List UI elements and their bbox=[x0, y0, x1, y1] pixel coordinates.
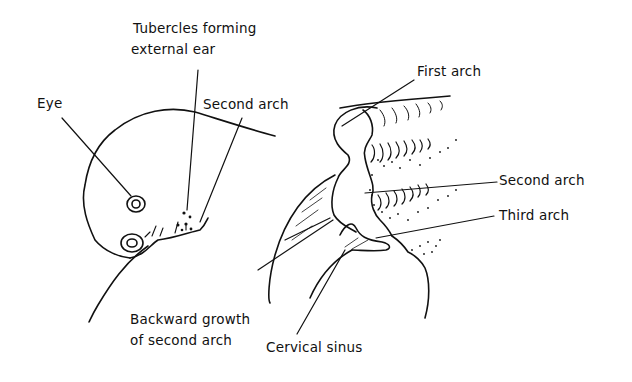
mouth-inner bbox=[127, 239, 137, 247]
label-backward-line1: Backward growth bbox=[130, 310, 250, 329]
diagram-canvas: Tubercles forming external ear Eye Secon… bbox=[0, 0, 632, 382]
label-first-arch: First arch bbox=[417, 62, 481, 81]
label-cervical-sinus: Cervical sinus bbox=[266, 338, 363, 357]
mouth-outer bbox=[121, 234, 143, 252]
tubercle-dots bbox=[177, 211, 193, 231]
label-eye: Eye bbox=[37, 94, 62, 113]
eye-inner bbox=[132, 200, 140, 208]
first-arch-top bbox=[340, 96, 450, 108]
label-second-arch-left: Second arch bbox=[203, 95, 289, 114]
leader-second-arch-right bbox=[365, 182, 497, 193]
first-arch-right bbox=[363, 110, 373, 195]
leader-second-arch-left bbox=[200, 118, 242, 222]
leader-backward-1 bbox=[258, 220, 333, 270]
leader-third-arch bbox=[376, 216, 494, 238]
leader-eye bbox=[62, 118, 131, 196]
label-second-arch-right: Second arch bbox=[499, 171, 585, 190]
label-tubercles-line2: external ear bbox=[131, 40, 215, 59]
third-arch-edge bbox=[392, 236, 429, 318]
first-arch-hatching bbox=[380, 101, 442, 126]
leader-first-arch bbox=[342, 80, 414, 126]
eye-outer bbox=[127, 196, 145, 212]
label-backward-line2: of second arch bbox=[130, 331, 232, 350]
second-arch-hatching bbox=[371, 139, 430, 162]
first-arch-outline bbox=[332, 107, 377, 232]
leader-cervical-sinus bbox=[297, 250, 345, 334]
leader-tubercles bbox=[187, 70, 198, 210]
embryo-illustration bbox=[0, 0, 632, 382]
label-tubercles-line1: Tubercles forming bbox=[133, 19, 256, 38]
label-third-arch: Third arch bbox=[499, 206, 569, 225]
